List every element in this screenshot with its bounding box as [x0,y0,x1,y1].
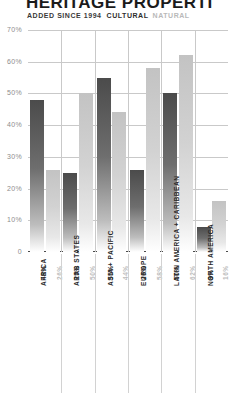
plot-area: 70%60%50%40%30%20%10%0 [28,30,228,252]
group-divider [128,30,129,252]
value-label-cultural: 48% [40,265,47,280]
value-label-cultural: 55% [107,265,114,280]
bar-natural[interactable] [112,112,126,252]
y-axis-tick-label: 70% [7,26,22,33]
value-label-cultural: 50% [173,265,180,280]
y-axis-tick-label: 60% [7,58,22,65]
value-label-natural: 16% [222,265,229,280]
bar-cultural[interactable] [97,78,111,252]
bar-cultural[interactable] [130,170,144,252]
bar-natural[interactable] [46,170,60,252]
group-divider [61,30,62,252]
bar-natural[interactable] [146,68,160,252]
bar-group [130,30,160,252]
y-axis-tick-label: 10% [7,216,22,223]
bar-natural[interactable] [212,201,226,252]
bar-natural[interactable] [79,93,93,252]
y-axis-tick-label: 0 [18,248,22,255]
x-label-group: LATIN AMERICA + CARIBBEAN50%62% [161,254,194,393]
bar-natural[interactable] [179,55,193,252]
chart-legend: ADDED SINCE 1994CULTURALNATURAL [27,12,190,19]
y-axis-tick-label: 40% [7,121,22,128]
x-label-group: ARAB STATES25%50% [61,254,94,393]
group-divider [95,30,96,252]
bar-group [30,30,60,252]
legend-natural-label: NATURAL [153,12,190,19]
x-label-group: NORTH AMERICA8%16% [195,254,228,393]
x-label-group: AFRICA48%26% [28,254,61,393]
bar-cultural[interactable] [30,100,44,252]
y-axis-tick-label: 20% [7,185,22,192]
y-axis-tick-label: 50% [7,89,22,96]
bar-group [197,30,227,252]
value-label-cultural: 26% [140,265,147,280]
legend-added-label: ADDED SINCE 1994 [27,12,102,19]
legend-cultural-label: CULTURAL [107,12,149,19]
y-axis-tick-label: 30% [7,153,22,160]
bar-group [97,30,127,252]
value-label-cultural: 25% [73,265,80,280]
x-axis-labels: AFRICA48%26%ARAB STATES25%50%ASIA + PACI… [28,254,228,393]
chart-page: HERITAGE PROPERTI ADDED SINCE 1994CULTUR… [0,0,232,393]
bar-group [63,30,93,252]
x-label-group: ASIA + PACIFIC55%44% [95,254,128,393]
group-divider [195,30,196,252]
value-label-cultural: 8% [207,270,214,281]
group-divider [161,30,162,252]
x-label-group: EUROPE26%58% [128,254,161,393]
